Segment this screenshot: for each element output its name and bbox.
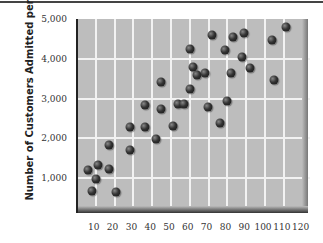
data-point [157, 104, 166, 113]
data-point [185, 84, 194, 93]
vertical-gridline [132, 19, 134, 213]
data-point [104, 164, 113, 173]
y-tick-label: 1,000 [41, 173, 67, 183]
data-point [185, 44, 194, 53]
y-tick-label: 2,000 [41, 133, 67, 143]
x-tick-label: 10 [88, 222, 99, 232]
x-tick-label: 20 [107, 222, 118, 232]
horizontal-gridline [78, 58, 310, 60]
x-tick-label: 110 [273, 222, 290, 232]
vertical-gridline [264, 19, 266, 213]
data-point [240, 28, 249, 37]
data-point [125, 123, 134, 132]
y-tick-label: 3,000 [41, 94, 67, 104]
data-point [180, 100, 189, 109]
data-point [84, 166, 93, 175]
plot-right-shadow [302, 19, 308, 213]
data-point [228, 32, 237, 41]
x-tick-label: 60 [182, 222, 193, 232]
horizontal-gridline [78, 98, 310, 100]
y-axis-label: Number of Customers Admitted per Day [24, 31, 35, 201]
x-tick-label: 50 [163, 222, 174, 232]
y-tick-label: 4,000 [41, 54, 67, 64]
data-point [200, 69, 209, 78]
vertical-gridline [95, 19, 97, 213]
y-tick-label: 5,000 [41, 14, 67, 24]
data-point [215, 119, 224, 128]
horizontal-gridline [78, 137, 310, 139]
vertical-gridline [114, 19, 116, 213]
scatter-plot-area [76, 19, 308, 213]
data-point [112, 187, 121, 196]
data-point [151, 135, 160, 144]
data-point [125, 146, 134, 155]
data-point [268, 36, 277, 45]
plot-bottom-shadow [78, 206, 308, 213]
vertical-gridline [151, 19, 153, 213]
x-tick-label: 120 [292, 222, 309, 232]
data-point [91, 174, 100, 183]
data-point [238, 53, 247, 62]
vertical-gridline [283, 19, 285, 213]
vertical-gridline [208, 19, 210, 213]
data-point [270, 75, 279, 84]
x-tick-label: 80 [220, 222, 231, 232]
x-tick-label: 40 [144, 222, 155, 232]
data-point [87, 187, 96, 196]
top-rule [0, 1, 323, 3]
data-point [208, 30, 217, 39]
data-point [281, 22, 290, 31]
data-point [140, 100, 149, 109]
data-point [168, 121, 177, 130]
horizontal-gridline [78, 177, 310, 179]
data-point [140, 123, 149, 132]
data-point [204, 102, 213, 111]
x-tick-label: 30 [126, 222, 137, 232]
data-point [245, 63, 254, 72]
vertical-gridline [170, 19, 172, 213]
data-point [227, 69, 236, 78]
data-point [93, 160, 102, 169]
data-point [104, 141, 113, 150]
x-tick-label: 70 [201, 222, 212, 232]
data-point [221, 46, 230, 55]
x-tick-label: 90 [238, 222, 249, 232]
x-tick-label: 100 [254, 222, 271, 232]
vertical-gridline [245, 19, 247, 213]
data-point [223, 96, 232, 105]
data-point [157, 77, 166, 86]
